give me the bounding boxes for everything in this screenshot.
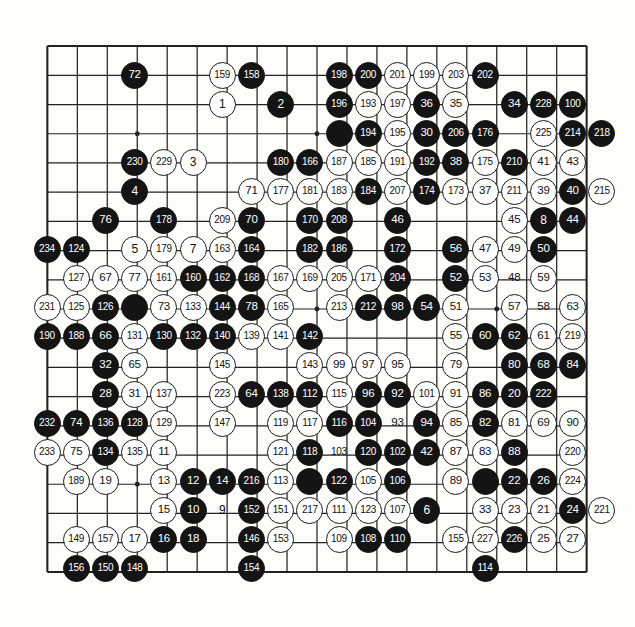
stone-black-216[interactable]: 216 [238,468,265,495]
stone-black-208[interactable]: 208 [326,207,353,234]
stone-white-87[interactable]: 87 [442,439,469,466]
stone-white-85[interactable]: 85 [442,410,469,437]
stone-black-178[interactable]: 178 [150,207,177,234]
stone-black-22[interactable]: 22 [501,468,528,495]
stone-black-196[interactable]: 196 [326,91,353,118]
stone-black-82[interactable]: 82 [472,410,499,437]
stone-white-35[interactable]: 35 [442,91,469,118]
stone-black-218[interactable]: 218 [588,120,615,147]
stone-black-142[interactable]: 142 [296,323,323,350]
stone-black-126[interactable]: 126 [92,294,119,321]
stone-white-63[interactable]: 63 [559,294,586,321]
stone-white-51[interactable]: 51 [442,294,469,321]
stone-white-109[interactable]: 109 [326,526,353,553]
stone-white-71[interactable]: 71 [238,178,265,205]
stone-label-48[interactable]: 48 [501,265,528,292]
stone-white-61[interactable]: 61 [530,323,557,350]
stone-black-166[interactable]: 166 [296,149,323,176]
stone-label-9[interactable]: 9 [209,497,236,524]
stone-white-25[interactable]: 25 [530,526,557,553]
stone-white-1[interactable]: 1 [209,91,236,118]
stone-label-93[interactable]: 93 [384,410,411,437]
stone-black-198[interactable]: 198 [326,62,353,89]
stone-black-172[interactable]: 172 [384,236,411,263]
stone-black-106[interactable]: 106 [384,468,411,495]
stone-white-39[interactable]: 39 [530,178,557,205]
stone-white-65[interactable]: 65 [121,352,148,379]
stone-white-31[interactable]: 31 [121,381,148,408]
stone-white-99[interactable]: 99 [326,352,353,379]
stone-black-66[interactable]: 66 [92,323,119,350]
stone-white-133[interactable]: 133 [180,294,207,321]
stone-black-168[interactable]: 168 [238,265,265,292]
stone-black-46[interactable]: 46 [384,207,411,234]
stone-white-143[interactable]: 143 [296,352,323,379]
stone-black-36[interactable]: 36 [413,91,440,118]
stone-white-79[interactable]: 79 [442,352,469,379]
stone-white-49[interactable]: 49 [501,236,528,263]
stone-white-69[interactable]: 69 [530,410,557,437]
stone-black-138[interactable]: 138 [267,381,294,408]
stone-white-201[interactable]: 201 [384,62,411,89]
stone-white-95[interactable]: 95 [384,352,411,379]
stone-white-13[interactable]: 13 [150,468,177,495]
stone-black-200[interactable]: 200 [355,62,382,89]
stone-white-113[interactable]: 113 [267,468,294,495]
stone-black-70[interactable]: 70 [238,207,265,234]
stone-white-224[interactable]: 224 [559,468,586,495]
stone-white-233[interactable]: 233 [34,439,61,466]
stone-white-229[interactable]: 229 [150,149,177,176]
stone-white-47[interactable]: 47 [472,236,499,263]
stone-black-110[interactable]: 110 [384,526,411,553]
stone-black-18[interactable]: 18 [180,526,207,553]
stone-white-53[interactable]: 53 [472,265,499,292]
stone-black-174[interactable]: 174 [413,178,440,205]
stone-white-67[interactable]: 67 [92,265,119,292]
stone-black-100[interactable]: 100 [559,91,586,118]
stone-black-150[interactable]: 150 [92,555,119,582]
stone-black-56[interactable]: 56 [442,236,469,263]
stone-black-192[interactable]: 192 [413,149,440,176]
stone-black[interactable] [296,468,323,495]
stone-black[interactable] [472,468,499,495]
stone-white-183[interactable]: 183 [326,178,353,205]
stone-black-76[interactable]: 76 [92,207,119,234]
stone-white-181[interactable]: 181 [296,178,323,205]
stone-black-210[interactable]: 210 [501,149,528,176]
stone-black-212[interactable]: 212 [355,294,382,321]
stone-white-115[interactable]: 115 [326,381,353,408]
stone-white-7[interactable]: 7 [180,236,207,263]
stone-white-15[interactable]: 15 [150,497,177,524]
stone-white-191[interactable]: 191 [384,149,411,176]
stone-black-38[interactable]: 38 [442,149,469,176]
stone-white-217[interactable]: 217 [296,497,323,524]
stone-white-73[interactable]: 73 [150,294,177,321]
stone-white-219[interactable]: 219 [559,323,586,350]
stone-white-159[interactable]: 159 [209,62,236,89]
stone-black-112[interactable]: 112 [296,381,323,408]
stone-black-26[interactable]: 26 [530,468,557,495]
stone-white-90[interactable]: 90 [559,410,586,437]
stone-black-162[interactable]: 162 [209,265,236,292]
stone-black-2[interactable]: 2 [267,91,294,118]
stone-black-124[interactable]: 124 [63,236,90,263]
stone-black-114[interactable]: 114 [472,555,499,582]
stone-black-176[interactable]: 176 [472,120,499,147]
stone-black-144[interactable]: 144 [209,294,236,321]
stone-black-30[interactable]: 30 [413,120,440,147]
stone-white-105[interactable]: 105 [355,468,382,495]
stone-white-227[interactable]: 227 [472,526,499,553]
stone-black-130[interactable]: 130 [150,323,177,350]
stone-black-170[interactable]: 170 [296,207,323,234]
go-board[interactable]: 7215915819820020119920320212196193197363… [33,32,587,582]
stone-white-169[interactable]: 169 [296,265,323,292]
stone-black-20[interactable]: 20 [501,381,528,408]
stone-black-94[interactable]: 94 [413,410,440,437]
stone-black-206[interactable]: 206 [442,120,469,147]
stone-black-108[interactable]: 108 [355,526,382,553]
stone-black-84[interactable]: 84 [559,352,586,379]
stone-black-122[interactable]: 122 [326,468,353,495]
stone-black-16[interactable]: 16 [150,526,177,553]
stone-black-6[interactable]: 6 [413,497,440,524]
stone-black-186[interactable]: 186 [326,236,353,263]
